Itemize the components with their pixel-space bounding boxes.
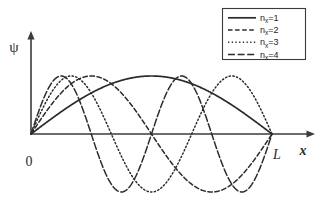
wave-curve-n1 bbox=[31, 76, 272, 134]
legend-label-n3: nx=3 bbox=[260, 37, 279, 48]
legend: nx=1nx=2nx=3nx=4 bbox=[223, 9, 306, 61]
legend-label-value: =3 bbox=[268, 37, 278, 47]
wavefunction-figure: ψ x 0 L nx=1nx=2nx=3nx=4 bbox=[0, 0, 336, 208]
legend-label-value: =2 bbox=[268, 25, 278, 35]
origin-label: 0 bbox=[26, 154, 33, 169]
legend-label-n1: nx=1 bbox=[260, 13, 279, 24]
y-axis-arrowhead bbox=[27, 31, 34, 40]
legend-label-n2: nx=2 bbox=[260, 25, 279, 36]
plot-svg: ψ x 0 L nx=1nx=2nx=3nx=4 bbox=[0, 0, 336, 208]
x-axis-label: x bbox=[299, 143, 307, 158]
x-axis-arrowhead bbox=[307, 130, 316, 137]
legend-label-value: =1 bbox=[268, 13, 278, 23]
legend-label-value: =4 bbox=[268, 50, 278, 60]
legend-label-n4: nx=4 bbox=[260, 50, 279, 61]
y-axis-label: ψ bbox=[9, 39, 19, 55]
end-label: L bbox=[272, 147, 281, 162]
